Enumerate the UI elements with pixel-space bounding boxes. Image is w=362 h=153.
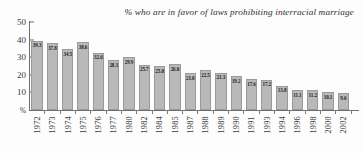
x-axis-tick-mark — [289, 110, 290, 114]
x-axis-tick-mark — [60, 110, 61, 114]
bar-value-label: 29.9 — [125, 59, 134, 65]
x-axis-tick-mark — [75, 110, 76, 114]
bar-value-label: 13.8 — [278, 87, 287, 93]
bar-value-label: 22.5 — [201, 72, 210, 78]
bar — [31, 41, 42, 110]
x-axis-tick-mark — [167, 110, 168, 114]
bar-column: 9.6 — [338, 22, 349, 110]
x-axis-tick-label: 2000 — [324, 116, 333, 134]
bar-column: 11.2 — [307, 22, 318, 110]
bar-column: 19.2 — [231, 22, 242, 110]
bar-column: 10.1 — [322, 22, 333, 110]
bar-column: 21.0 — [185, 22, 196, 110]
x-axis-tick-label: 1998 — [309, 116, 318, 134]
bar-value-label: 34.5 — [63, 51, 72, 57]
chart-screenshot: % who are in favor of laws prohibiting i… — [0, 0, 362, 153]
x-axis-tick-label: 1996 — [293, 116, 302, 134]
bar-value-label: 19.2 — [232, 78, 241, 84]
x-axis-tick-label: 1976 — [94, 116, 103, 134]
x-axis-tick-mark — [121, 110, 122, 114]
x-axis-tick-label: 1975 — [79, 116, 88, 134]
bar-column: 28.3 — [108, 22, 119, 110]
x-axis-tick-label: 1991 — [247, 116, 256, 134]
bar-column: 11.1 — [292, 22, 303, 110]
bar-value-label: 26.0 — [171, 66, 180, 72]
bar-column: 37.8 — [47, 22, 58, 110]
bar-column: 34.5 — [62, 22, 73, 110]
chart-title: % who are in favor of laws prohibiting i… — [86, 7, 354, 17]
bar-column: 25.0 — [154, 22, 165, 110]
x-axis-tick-mark — [228, 110, 229, 114]
bar — [77, 42, 88, 110]
bar-column: 17.2 — [261, 22, 272, 110]
bar-value-label: 25.7 — [140, 66, 149, 72]
x-axis-tick-label: 1984 — [155, 116, 164, 134]
x-axis-tick-label: 1987 — [186, 116, 195, 134]
x-axis-tick-mark — [320, 110, 321, 114]
x-axis-tick-mark — [44, 110, 45, 114]
bar-column: 21.3 — [215, 22, 226, 110]
x-axis-tick-mark — [259, 110, 260, 114]
y-axis-tick-label: 20 — [2, 70, 26, 80]
x-axis-tick-label: 1982 — [140, 116, 149, 134]
x-axis-tick-label: 1972 — [33, 116, 42, 134]
bar-column: 17.6 — [246, 22, 257, 110]
x-axis-tick-label: 1985 — [171, 116, 180, 134]
bar — [62, 49, 73, 110]
bar-column: 39.3 — [31, 22, 42, 110]
bar-column: 26.0 — [169, 22, 180, 110]
bar-value-label: 10.1 — [324, 94, 333, 100]
bar-column: 22.5 — [200, 22, 211, 110]
y-axis-tick-label: 40 — [2, 35, 26, 45]
y-axis-tick-label: 10 — [2, 87, 26, 97]
bar-value-label: 9.6 — [340, 95, 346, 101]
x-axis-tick-mark — [335, 110, 336, 114]
y-axis-tick-label: 30 — [2, 52, 26, 62]
y-axis-unit-label: % — [2, 106, 26, 115]
bar-value-label: 11.1 — [293, 92, 301, 98]
x-axis-tick-mark — [106, 110, 107, 114]
y-axis-tick-label: 50 — [2, 17, 26, 27]
x-axis-tick-mark — [90, 110, 91, 114]
x-axis-tick-label: 1973 — [48, 116, 57, 134]
bar-column: 29.9 — [123, 22, 134, 110]
x-axis-tick-mark — [274, 110, 275, 114]
x-axis-tick-label: 1994 — [278, 116, 287, 134]
x-axis-tick-label: 1989 — [217, 116, 226, 134]
bar — [93, 53, 104, 110]
bar-column: 25.7 — [139, 22, 150, 110]
x-axis-tick-label: 1974 — [64, 116, 73, 134]
x-axis-tick-mark — [243, 110, 244, 114]
bar-column: 38.6 — [77, 22, 88, 110]
x-axis-tick-mark — [182, 110, 183, 114]
x-axis-tick-mark — [213, 110, 214, 114]
x-axis-tick-label: 1990 — [232, 116, 241, 134]
x-axis-tick-mark — [305, 110, 306, 114]
x-axis-tick-mark — [197, 110, 198, 114]
y-axis-tick-labels: 5040302010% — [0, 0, 26, 153]
bar-value-label: 21.3 — [217, 74, 226, 80]
x-axis-tick-mark — [152, 110, 153, 114]
bar — [47, 43, 58, 110]
x-axis-tick-label: 1988 — [201, 116, 210, 134]
bar-value-label: 25.0 — [155, 68, 164, 74]
bar-value-label: 28.3 — [109, 62, 118, 68]
bar-column: 13.8 — [276, 22, 287, 110]
x-axis-tick-mark — [351, 110, 352, 114]
bar-value-label: 17.6 — [247, 81, 256, 87]
bar-value-label: 38.6 — [79, 44, 88, 50]
bar-value-label: 39.3 — [33, 42, 42, 48]
x-axis-tick-label: 1980 — [125, 116, 134, 134]
x-axis-tick-label: 2002 — [339, 116, 348, 134]
bar-value-label: 21.0 — [186, 75, 195, 81]
bar-column: 32.6 — [93, 22, 104, 110]
bar-value-label: 37.8 — [48, 45, 57, 51]
x-axis-tick-label: 1993 — [263, 116, 272, 134]
x-axis-tick-mark — [136, 110, 137, 114]
x-axis-line — [29, 110, 359, 111]
x-axis-tick-label: 1977 — [109, 116, 118, 134]
bar — [123, 57, 134, 110]
plot-area: 39.337.834.538.632.628.329.925.725.026.0… — [29, 22, 359, 110]
bar-value-label: 11.2 — [309, 92, 317, 98]
bar-value-label: 17.2 — [263, 81, 272, 87]
